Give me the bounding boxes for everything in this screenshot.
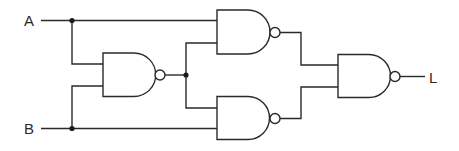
- inverter-bubble-icon: [155, 70, 165, 80]
- junction-g1: [183, 72, 188, 77]
- nand-gate-1: [103, 53, 165, 97]
- junction-a: [69, 18, 74, 23]
- nand-gate-3: [217, 97, 280, 140]
- nand-gate-4: [338, 55, 400, 98]
- inverter-bubble-icon: [390, 72, 400, 82]
- wire-g2-g3-outputs: [280, 33, 338, 119]
- input-label-b: B: [24, 120, 34, 137]
- nand-gate-2: [217, 10, 280, 54]
- wire-g1-output: [165, 43, 217, 108]
- inverter-bubble-icon: [270, 114, 280, 124]
- inverter-bubble-icon: [270, 28, 280, 38]
- input-label-a: A: [24, 12, 34, 29]
- junction-b: [69, 126, 74, 131]
- output-label-l: L: [429, 69, 437, 86]
- logic-circuit-diagram: A B L: [0, 0, 459, 151]
